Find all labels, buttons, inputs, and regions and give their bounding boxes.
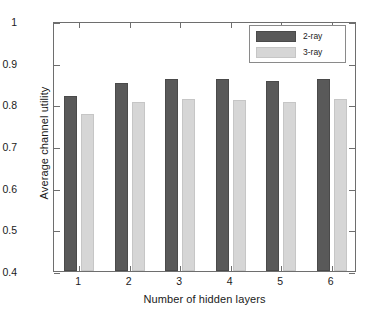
x-axis-tick [79,266,80,271]
y-axis-title: Average channel utility [38,33,50,253]
y-axis-tick [54,148,60,149]
y-axis-tick-label: 1 [0,16,17,28]
y-axis-tick-label: 0.6 [0,183,17,195]
bar-3-ray-2 [132,102,145,271]
y-axis-tick-label: 0.7 [0,141,17,153]
legend-label: 2-ray [303,30,322,43]
x-axis-tick-label: 2 [114,275,144,287]
y-axis-tick-right [349,231,355,232]
y-axis-tick [54,106,60,107]
legend-item-3-ray[interactable]: 3-ray [256,46,342,59]
y-axis-tick-right [349,23,355,24]
x-axis-tick-top [231,23,232,28]
x-axis-tick-label: 4 [215,275,245,287]
y-axis-tick-right [349,148,355,149]
bar-3-ray-3 [182,99,195,271]
bar-3-ray-1 [81,114,94,271]
x-axis-tick-top [79,23,80,28]
bar-chart-figure: Average channel utility Number of hidden… [0,0,374,318]
y-axis-tick-right [349,106,355,107]
bar-2-ray-2 [115,83,128,271]
chart-legend: 2-ray3-ray [249,25,346,63]
y-axis-tick [54,65,60,66]
y-axis-tick-right [349,190,355,191]
x-axis-tick [180,266,181,271]
y-axis-tick-label: 0.9 [0,58,17,70]
y-axis-tick-label: 0.8 [0,99,17,111]
x-axis-tick [332,266,333,271]
y-axis-tick-right [349,65,355,66]
x-axis-tick-label: 6 [316,275,346,287]
bar-2-ray-4 [216,79,229,271]
bar-2-ray-1 [64,96,77,271]
x-axis-tick [130,266,131,271]
bar-2-ray-5 [266,81,279,271]
bar-3-ray-5 [283,102,296,271]
y-axis-tick [54,23,60,24]
bar-3-ray-4 [233,100,246,271]
x-axis-tick-label: 5 [265,275,295,287]
legend-label: 3-ray [303,46,322,59]
x-axis-tick-label: 1 [63,275,93,287]
x-axis-tick-label: 3 [164,275,194,287]
x-axis-title: Number of hidden layers [53,293,356,305]
y-axis-tick [54,273,60,274]
x-axis-tick-top [130,23,131,28]
x-axis-tick-top [180,23,181,28]
legend-swatch-3-ray [256,47,296,58]
y-axis-tick [54,190,60,191]
x-axis-tick [281,266,282,271]
y-axis-tick-right [349,273,355,274]
bar-3-ray-6 [334,99,347,271]
bar-2-ray-6 [317,79,330,271]
y-axis-tick [54,231,60,232]
legend-item-2-ray[interactable]: 2-ray [256,30,342,43]
legend-swatch-2-ray [256,31,296,42]
y-axis-tick-label: 0.5 [0,224,17,236]
y-axis-tick-label: 0.4 [0,266,17,278]
x-axis-tick [231,266,232,271]
bar-2-ray-3 [165,79,178,272]
